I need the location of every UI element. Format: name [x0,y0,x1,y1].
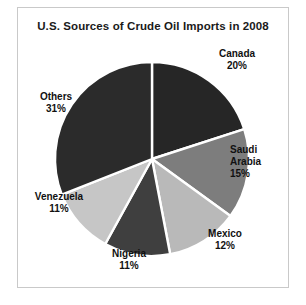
pie-label-canada: Canada 20% [200,48,274,72]
chart-figure-frame: U.S. Sources of Crude Oil Imports in 200… [17,7,289,288]
pie-label-saudi-arabia: Saudi Arabia 15% [230,144,290,180]
pie-label-venezuela: Venezuela 11% [20,191,98,215]
pie-label-mexico: Mexico 12% [194,228,256,252]
pie-label-others: Others 31% [24,91,88,115]
pie-label-nigeria: Nigeria 11% [96,248,162,272]
pie-chart: Canada 20% Saudi Arabia 15% Mexico 12% N… [18,8,290,289]
